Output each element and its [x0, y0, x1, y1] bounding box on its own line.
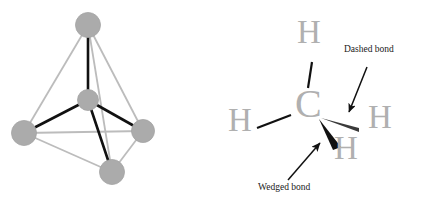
wedged-bond-arrow: [288, 143, 320, 180]
atom-sphere-left: [12, 121, 37, 146]
bond-to-h-left: [257, 115, 291, 128]
wedge-dash-structure-panel: C H H H H Dashed bond Wedged bond: [212, 0, 424, 212]
wedged-bond-annotation-label: Wedged bond: [258, 183, 310, 193]
hydrogen-label-left: H: [228, 104, 252, 137]
atom-sphere-top: [76, 13, 101, 38]
dashed-bond-arrow: [349, 67, 367, 112]
atom-sphere-bottom: [100, 160, 125, 185]
dashed-bond-annotation-label: Dashed bond: [344, 45, 394, 55]
central-carbon-label: C: [295, 84, 322, 124]
cage-edge-left-right: [24, 131, 143, 133]
tetrahedron-model-panel: [0, 0, 212, 212]
atom-sphere-center: [78, 90, 99, 111]
cage-edge-left-bottom: [24, 133, 112, 172]
hydrogen-label-top: H: [297, 16, 321, 49]
hydrogen-label-bottom: H: [334, 132, 358, 165]
figure-canvas: C H H H H Dashed bond Wedged bond: [0, 0, 424, 212]
tetrahedron-svg: [0, 0, 212, 212]
hydrogen-label-right: H: [368, 101, 392, 134]
atom-sphere-right: [132, 120, 155, 143]
